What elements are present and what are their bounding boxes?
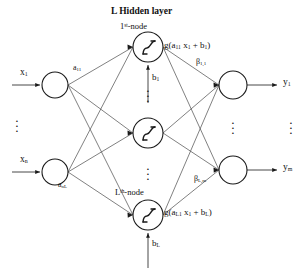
output-node-1	[219, 71, 247, 99]
hidden-column-upper-ellipsis: ···	[141, 88, 155, 103]
far-right-column-ellipsis: ···	[284, 120, 298, 135]
neural-network-diagram: L Hidden layer 1st-node Lth-node g(a11 x…	[0, 0, 307, 270]
weight-subscript: 11	[77, 67, 82, 72]
last-node-suffix: -node	[124, 187, 143, 197]
network-graph-canvas	[0, 0, 307, 270]
input-label-xn: xn	[20, 155, 28, 165]
output-arrows	[247, 85, 277, 170]
formula-part: + b	[191, 207, 205, 217]
bias-subscript: L	[157, 242, 160, 248]
input-label-x1: x1	[20, 68, 28, 78]
page-title: L Hidden layer	[111, 7, 172, 17]
output-column-ellipsis: ···	[226, 120, 240, 135]
input-subscript: n	[25, 158, 28, 164]
weight-label-a11: a11	[73, 64, 81, 73]
output-label-ym: ym	[283, 163, 292, 173]
hidden-to-output-edges	[163, 47, 219, 215]
top-activation-formula: g(a11 x1 + b1)	[164, 41, 210, 51]
bias-label-bL: bL	[152, 239, 160, 249]
formula-part: g(a	[164, 40, 176, 50]
hidden-column-lower-ellipsis: ···	[141, 166, 155, 181]
bias-subscript: 1	[157, 76, 160, 82]
weight-subscript: L,m	[198, 178, 206, 183]
first-node-suffix: -node	[128, 21, 147, 31]
first-node-label: 1st-node	[120, 22, 147, 31]
output-label-y1: y1	[283, 78, 291, 88]
weight-subscript: nL	[62, 184, 68, 189]
formula-part: )	[207, 40, 210, 50]
weight-label-beta-L-m: βL,m	[194, 175, 206, 184]
hidden-node-circles	[133, 32, 163, 230]
output-node-m	[219, 156, 247, 184]
weight-label-anL: anL	[58, 181, 67, 190]
output-subscript: m	[288, 166, 293, 172]
bias-label-b1: b1	[152, 73, 159, 83]
formula-part: )	[209, 207, 212, 217]
weight-subscript: 1,1	[200, 61, 206, 66]
input-subscript: 1	[25, 71, 28, 77]
output-subscript: 1	[288, 81, 291, 87]
last-node-label: Lth-node	[115, 188, 144, 197]
weight-label-beta-1-1: β1,1	[196, 58, 206, 67]
bottom-activation-formula: g(aL1 x1 + bL)	[164, 208, 212, 218]
input-node-1	[42, 72, 68, 98]
input-node-circles	[42, 72, 68, 185]
formula-part: g(a	[164, 207, 176, 217]
formula-part: x	[181, 40, 188, 50]
formula-part: + b	[190, 40, 204, 50]
input-column-ellipsis: ···	[10, 118, 24, 133]
